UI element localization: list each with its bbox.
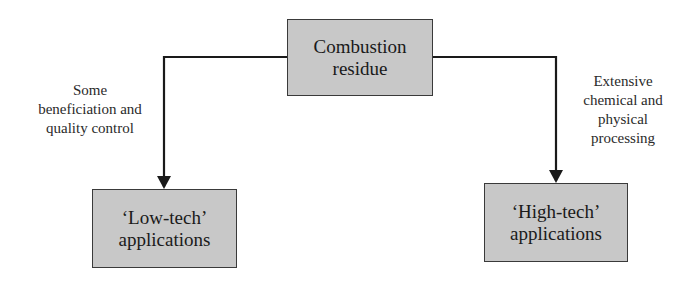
node-low-tech-applications: ‘Low-tech’ applications <box>92 189 237 268</box>
arrowhead-low-icon <box>157 176 171 189</box>
edge-label-line: chemical and <box>560 91 686 110</box>
edge-label-low: Some beneficiation and quality control <box>20 81 160 138</box>
node-text-line: Combustion <box>314 36 407 58</box>
node-text-line: applications <box>119 229 211 251</box>
edge-label-line: beneficiation and <box>20 100 160 119</box>
edge-label-line: physical <box>560 110 686 129</box>
edge-to-low-tech <box>164 57 287 187</box>
node-text-line: residue <box>314 58 407 80</box>
edge-label-line: Some <box>20 81 160 100</box>
node-text-line: ‘Low-tech’ <box>119 207 211 229</box>
edge-label-high: Extensive chemical and physical processi… <box>560 72 686 148</box>
node-text-line: ‘High-tech’ <box>510 201 602 223</box>
edge-label-line: Extensive <box>560 72 686 91</box>
node-high-tech-applications: ‘High-tech’ applications <box>484 183 628 262</box>
node-text-line: applications <box>510 223 602 245</box>
node-combustion-residue: Combustion residue <box>287 19 433 96</box>
edge-label-line: quality control <box>20 119 160 138</box>
edge-to-high-tech <box>433 57 556 181</box>
arrowhead-high-icon <box>549 170 563 183</box>
edge-label-line: processing <box>560 129 686 148</box>
